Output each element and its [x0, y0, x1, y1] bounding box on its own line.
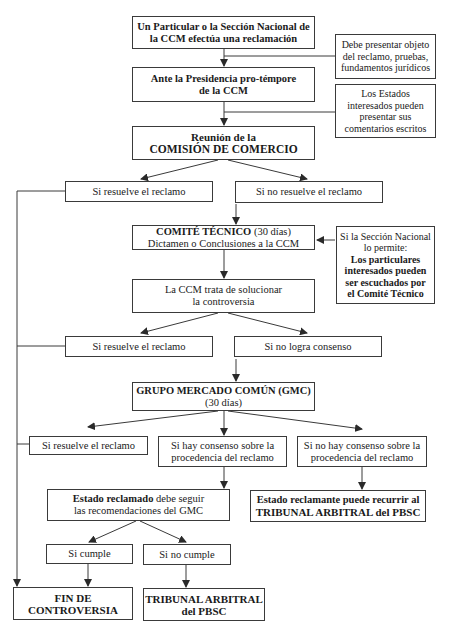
node-text: la controversia	[192, 296, 254, 308]
node-text: Estado reclamante puede recurrir al	[257, 494, 420, 506]
note-text: interesados pueden	[347, 100, 423, 112]
decision-text: Si no hay consenso sobre la	[304, 440, 420, 452]
decision-text: Si hay consenso sobre la	[171, 440, 274, 452]
decision-text: Si resuelve el reclamo	[92, 341, 185, 353]
note-text: Los Estados	[361, 88, 410, 100]
node-text: Un Particular o la Sección Nacional de	[137, 21, 309, 33]
node-text: del PBSC	[182, 605, 227, 617]
node-estado-reclamado: Estado reclamado debe seguir las recomen…	[47, 489, 230, 521]
node-text: TRIBUNAL ARBITRAL del PBSC	[256, 506, 421, 518]
decision-no-resuelve-1: Si no resuelve el reclamo	[235, 181, 383, 203]
node-text: las recomendaciones del GMC	[74, 505, 203, 517]
node-start-reclamacion: Un Particular o la Sección Nacional de l…	[132, 16, 315, 49]
node-text: GRUPO MERCADO COMÚN (GMC)	[136, 385, 311, 397]
node-text: La CCM trata de solucionar	[165, 284, 282, 296]
node-text: Reunión de la	[191, 131, 256, 143]
note-particulares: Si la Sección Nacional lo permite: Los p…	[336, 226, 435, 304]
note-text: Los particulares	[351, 254, 421, 266]
node-fin-controversia: FIN DE CONTROVERSIA	[13, 587, 133, 620]
node-text: TRIBUNAL ARBITRAL	[145, 593, 263, 605]
node-text: de la CCM	[199, 85, 248, 97]
note-text: Si la Sección Nacional	[340, 231, 431, 243]
note-text: ser escuchados por	[345, 277, 425, 289]
node-text: (30 días)	[205, 397, 242, 409]
decision-hay-consenso: Si hay consenso sobre la procedencia del…	[158, 436, 287, 467]
node-reunion-comision: Reunión de la COMISIÓN DE COMERCIO	[132, 126, 315, 160]
note-text: interesados pueden	[345, 265, 427, 277]
decision-cumple: Si cumple	[46, 544, 133, 564]
note-text: del reclamo, pruebas,	[343, 51, 429, 63]
node-grupo-mercado-comun: GRUPO MERCADO COMÚN (GMC) (30 días)	[132, 382, 315, 411]
estado-reclamado-rest: debe seguir	[153, 493, 204, 504]
estado-reclamado-bold: Estado reclamado	[73, 493, 154, 504]
decision-text: procedencia del reclamo	[171, 452, 274, 464]
node-text: la CCM efectúa una reclamación	[150, 33, 297, 45]
node-estado-reclamante: Estado reclamante puede recurrir al TRIB…	[250, 490, 426, 522]
comite-days: (30 días)	[254, 226, 291, 237]
decision-no-cumple: Si no cumple	[143, 544, 231, 565]
node-text: Ante la Presidencia pro-témpore	[151, 73, 297, 85]
decision-text: Si no cumple	[159, 549, 214, 561]
decision-text: procedencia del reclamo	[311, 452, 414, 464]
node-comite-tecnico: COMITÉ TÉCNICO (30 días) Dictamen o Conc…	[132, 225, 315, 250]
decision-no-consenso: Si no logra consenso	[234, 336, 382, 357]
decision-text: Si cumple	[68, 548, 110, 560]
decision-resuelve-1: Si resuelve el reclamo	[65, 181, 213, 202]
note-text: presentar sus	[360, 111, 412, 123]
note-text: comentarios escritos	[345, 123, 427, 135]
node-text: CONTROVERSIA	[28, 604, 118, 616]
comite-title: COMITÉ TÉCNICO	[156, 226, 251, 237]
note-text: el Comité Técnico	[347, 288, 423, 300]
decision-text: Si no resuelve el reclamo	[256, 186, 362, 198]
note-text: Debe presentar objeto	[342, 39, 430, 51]
note-text: lo permite:	[364, 242, 408, 254]
decision-no-hay-consenso: Si no hay consenso sobre la procedencia …	[297, 436, 427, 467]
node-text: Dictamen o Conclusiones a la CCM	[148, 238, 299, 250]
decision-text: Si no logra consenso	[264, 341, 351, 353]
node-presidencia: Ante la Presidencia pro-témpore de la CC…	[132, 67, 315, 102]
note-requisitos: Debe presentar objeto del reclamo, prueb…	[335, 34, 436, 79]
node-text: COMISIÓN DE COMERCIO	[149, 143, 297, 155]
flowchart-canvas: Un Particular o la Sección Nacional de l…	[0, 0, 449, 631]
decision-resuelve-3: Si resuelve el reclamo	[29, 436, 148, 455]
note-estados-interesados: Los Estados interesados pueden presentar…	[335, 84, 436, 138]
decision-text: Si resuelve el reclamo	[92, 186, 185, 198]
node-text: FIN DE	[55, 592, 92, 604]
decision-text: Si resuelve el reclamo	[42, 440, 135, 452]
node-text: Estado reclamado debe seguir	[73, 493, 204, 505]
note-text: fundamentos jurídicos	[341, 62, 430, 74]
node-ccm-trata: La CCM trata de solucionar la controvers…	[132, 279, 315, 313]
node-text: COMITÉ TÉCNICO (30 días)	[156, 226, 291, 238]
node-tribunal-arbitral: TRIBUNAL ARBITRAL del PBSC	[143, 588, 265, 621]
decision-resuelve-2: Si resuelve el reclamo	[65, 336, 213, 357]
